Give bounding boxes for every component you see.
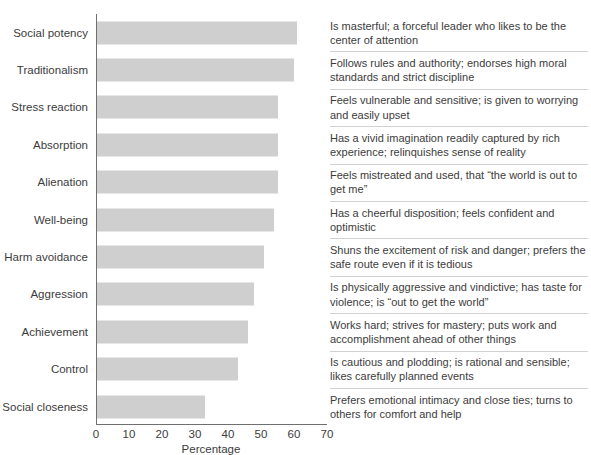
- x-axis-line: [96, 424, 327, 425]
- category-label: Social potency: [0, 26, 88, 40]
- bar: [96, 208, 274, 231]
- category-label: Traditionalism: [0, 63, 88, 77]
- x-axis-tick-label: 50: [255, 428, 268, 440]
- x-axis-title: Percentage: [182, 443, 241, 455]
- category-label: Absorption: [0, 138, 88, 152]
- x-axis-tick-label: 30: [189, 428, 202, 440]
- description-divider: [330, 313, 588, 314]
- chart-row: AggressionIs physically aggressive and v…: [0, 276, 591, 313]
- bar: [96, 21, 297, 44]
- x-axis-tick-label: 10: [123, 428, 136, 440]
- category-label: Well-being: [0, 213, 88, 227]
- chart-row: Social closenessPrefers emotional intima…: [0, 388, 591, 425]
- x-axis-tick-label: 70: [321, 428, 334, 440]
- y-axis-line: [96, 14, 97, 424]
- description-text: Is physically aggressive and vindictive;…: [330, 280, 588, 308]
- bar: [96, 283, 254, 306]
- chart-row: TraditionalismFollows rules and authorit…: [0, 51, 591, 88]
- description-text: Feels vulnerable and sensitive; is given…: [330, 93, 588, 121]
- category-label: Alienation: [0, 175, 88, 189]
- bar: [96, 96, 278, 119]
- description-divider: [330, 351, 588, 352]
- bar: [96, 133, 278, 156]
- description-divider: [330, 89, 588, 90]
- description-divider: [330, 51, 588, 52]
- chart-row: Harm avoidanceShuns the excitement of ri…: [0, 238, 591, 275]
- description-divider: [330, 238, 588, 239]
- bar: [96, 358, 238, 381]
- description-text: Feels mistreated and used, that “the wor…: [330, 168, 588, 196]
- bar: [96, 59, 294, 82]
- x-axis-tick-label: 40: [222, 428, 235, 440]
- chart-row: Stress reactionFeels vulnerable and sens…: [0, 89, 591, 126]
- description-text: Works hard; strives for mastery; puts wo…: [330, 318, 588, 346]
- description-text: Has a vivid imagination readily captured…: [330, 131, 588, 159]
- description-text: Is masterful; a forceful leader who like…: [330, 18, 588, 46]
- description-divider: [330, 276, 588, 277]
- chart-row: ControlIs cautious and plodding; is rati…: [0, 351, 591, 388]
- description-divider: [330, 201, 588, 202]
- chart-row: Social potencyIs masterful; a forceful l…: [0, 14, 591, 51]
- category-label: Stress reaction: [0, 100, 88, 114]
- chart-row: AlienationFeels mistreated and used, tha…: [0, 164, 591, 201]
- description-text: Prefers emotional intimacy and close tie…: [330, 392, 588, 420]
- bar: [96, 171, 278, 194]
- x-axis-tick-label: 0: [93, 428, 99, 440]
- x-axis-tick-label: 20: [156, 428, 169, 440]
- category-label: Social closeness: [0, 400, 88, 414]
- description-divider: [330, 388, 588, 389]
- description-divider: [330, 164, 588, 165]
- category-label: Harm avoidance: [0, 250, 88, 264]
- description-text: Shuns the excitement of risk and danger;…: [330, 243, 588, 271]
- bar: [96, 320, 248, 343]
- chart-row: AchievementWorks hard; strives for maste…: [0, 313, 591, 350]
- x-axis-tick-label: 60: [288, 428, 301, 440]
- description-text: Follows rules and authority; endorses hi…: [330, 56, 588, 84]
- bar: [96, 246, 264, 269]
- description-divider: [330, 126, 588, 127]
- category-label: Aggression: [0, 287, 88, 301]
- description-text: Is cautious and plodding; is rational an…: [330, 355, 588, 383]
- chart-row: Well-beingHas a cheerful disposition; fe…: [0, 201, 591, 238]
- category-label: Control: [0, 362, 88, 376]
- category-label: Achievement: [0, 325, 88, 339]
- description-text: Has a cheerful disposition; feels confid…: [330, 205, 588, 233]
- bar: [96, 395, 205, 418]
- chart-row: AbsorptionHas a vivid imagination readil…: [0, 126, 591, 163]
